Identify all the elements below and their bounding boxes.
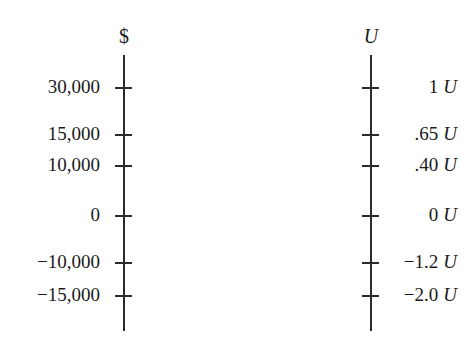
utility-scale-figure: $ 30,000 15,000 10,000 0 −10,000 −15,000… — [0, 0, 467, 344]
utility-tick-value: −1.2 — [404, 251, 438, 272]
utility-tick-mark — [362, 87, 379, 89]
utility-unit-symbol: U — [438, 251, 457, 272]
utility-tick-label: 0U — [380, 205, 457, 225]
utility-tick-mark — [362, 165, 379, 167]
dollar-tick-label: 0 — [91, 205, 101, 225]
utility-tick-value: .65 — [415, 123, 439, 144]
dollar-tick-mark — [115, 215, 132, 217]
utility-axis-title: U — [341, 24, 401, 48]
utility-axis-line — [370, 55, 372, 331]
utility-unit-symbol: U — [438, 204, 457, 225]
utility-unit-symbol: U — [438, 284, 457, 305]
utility-tick-value: 0 — [429, 204, 439, 225]
dollar-tick-mark — [115, 165, 132, 167]
utility-tick-mark — [362, 262, 379, 264]
utility-tick-mark — [362, 215, 379, 217]
dollar-axis-title: $ — [94, 24, 154, 48]
utility-tick-mark — [362, 134, 379, 136]
utility-tick-label: −2.0U — [380, 285, 457, 305]
utility-axis: U 1U .65U .40U 0U −1.2U −2.0U — [240, 0, 467, 344]
dollar-tick-label: 10,000 — [48, 155, 100, 175]
utility-tick-label: .65U — [380, 124, 457, 144]
dollar-tick-mark — [115, 87, 132, 89]
utility-tick-value: −2.0 — [404, 284, 438, 305]
utility-unit-symbol: U — [438, 123, 457, 144]
dollar-tick-mark — [115, 262, 132, 264]
utility-unit-symbol: U — [438, 154, 457, 175]
dollar-tick-label: 15,000 — [48, 124, 100, 144]
utility-tick-value: 1 — [429, 76, 439, 97]
utility-tick-value: .40 — [415, 154, 439, 175]
utility-tick-label: .40U — [380, 155, 457, 175]
utility-tick-label: 1U — [380, 77, 457, 97]
dollar-axis: $ 30,000 15,000 10,000 0 −10,000 −15,000 — [0, 0, 240, 344]
dollar-tick-label: 30,000 — [48, 77, 100, 97]
utility-unit-symbol: U — [438, 76, 457, 97]
dollar-tick-label: −15,000 — [37, 285, 100, 305]
dollar-tick-label: −10,000 — [37, 252, 100, 272]
utility-tick-mark — [362, 295, 379, 297]
dollar-tick-mark — [115, 134, 132, 136]
dollar-axis-line — [123, 55, 125, 331]
utility-tick-label: −1.2U — [380, 252, 457, 272]
dollar-tick-mark — [115, 295, 132, 297]
